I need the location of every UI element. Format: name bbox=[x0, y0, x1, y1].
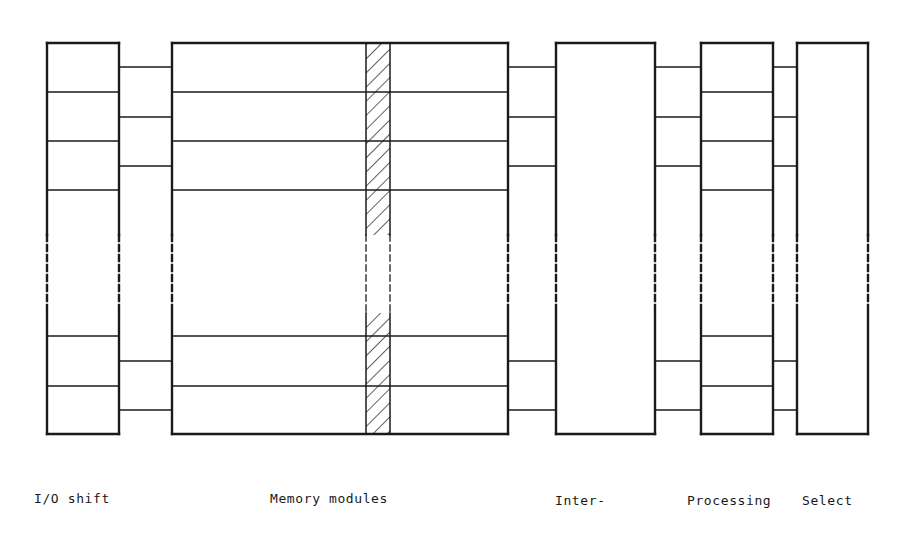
hatched-column-bottom bbox=[366, 313, 390, 434]
processing-label-line1: Processing bbox=[687, 491, 771, 511]
interconnect-pe-connectors bbox=[655, 67, 701, 410]
pe-selectfirst-connectors bbox=[773, 67, 797, 410]
io-label-line1: I/O shift bbox=[34, 489, 110, 509]
interconnection-network-block bbox=[556, 43, 655, 434]
io-memory-connectors bbox=[119, 67, 172, 410]
memory-modules-label: Memory modules bbox=[270, 449, 388, 529]
select-first-label-line1: Select bbox=[802, 491, 861, 511]
io-shift-registers-block bbox=[47, 43, 119, 434]
memory-interconnect-connectors bbox=[508, 67, 556, 410]
select-first-network-block bbox=[797, 43, 868, 434]
memory-modules-block bbox=[172, 43, 508, 434]
processing-elements-label: Processing elements bbox=[687, 451, 771, 538]
select-first-network-label: Select First network bbox=[802, 451, 861, 538]
processing-elements-block bbox=[701, 43, 773, 434]
block-diagram bbox=[0, 0, 917, 538]
io-shift-registers-label: I/O shift registers bbox=[34, 449, 110, 538]
hatched-column-top bbox=[366, 43, 390, 235]
interconnection-network-label: Inter- connection network bbox=[555, 451, 639, 538]
memory-label-line1: Memory modules bbox=[270, 489, 388, 509]
interconnect-label-line1: Inter- bbox=[555, 491, 639, 511]
